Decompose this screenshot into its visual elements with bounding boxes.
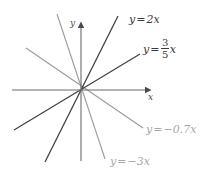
eq-operator: = xyxy=(149,44,160,55)
line-y-equals-three-fifths-x xyxy=(14,54,140,130)
equation-label-y-equals-three-fifths-x: y=35x xyxy=(143,38,176,60)
y-axis-label: y xyxy=(70,18,75,28)
eq-variable: x xyxy=(170,44,176,55)
graph-figure: x y y=2x y=35x y=−0.7x y=−3x xyxy=(0,0,212,175)
fraction-numerator: 3 xyxy=(161,38,169,49)
eq-rhs: −3x xyxy=(127,156,149,167)
x-axis-label: x xyxy=(148,92,153,102)
eq-rhs: 2x xyxy=(146,14,159,25)
plot-canvas xyxy=(0,0,212,175)
equation-label-y-equals-minus-0-7x: y=−0.7x xyxy=(146,120,196,136)
fraction-denominator: 5 xyxy=(161,48,169,60)
fraction-three-fifths: 35 xyxy=(161,38,169,60)
equation-label-y-equals-minus-3x: y=−3x xyxy=(110,152,150,168)
eq-operator: = xyxy=(135,14,146,25)
eq-operator: = xyxy=(116,156,127,167)
eq-operator: = xyxy=(152,124,163,135)
eq-rhs: −0.7x xyxy=(163,124,196,135)
equation-label-y-equals-2x: y=2x xyxy=(129,10,160,26)
